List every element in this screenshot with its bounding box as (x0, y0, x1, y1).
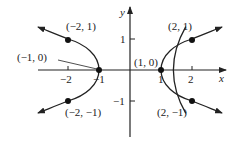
tick-label-x-neg2: −2 (60, 73, 72, 85)
label-point-2-neg1: (2, −1) (157, 106, 187, 119)
point-2-neg1 (189, 98, 195, 104)
tick-label-y-neg1: −1 (113, 95, 125, 107)
hyperbola-plot: x y −2 −1 1 2 1 −1 (−2, 1) (2, 1) (−1, 0… (0, 0, 233, 141)
left-branch-upper (38, 27, 99, 70)
point-2-1 (189, 37, 195, 43)
leader-line-neg1-0 (58, 60, 97, 69)
y-axis-label: y (119, 6, 125, 18)
point-neg1-0 (96, 67, 102, 73)
tick-label-y-1: 1 (120, 33, 126, 45)
label-point-neg2-1: (−2, 1) (66, 20, 96, 33)
label-point-neg2-neg1: (−2, −1) (65, 106, 102, 119)
right-branch-upper (161, 27, 222, 70)
label-point-2-1: (2, 1) (168, 20, 192, 33)
label-point-neg1-0: (−1, 0) (17, 51, 47, 64)
point-neg2-1 (65, 37, 71, 43)
point-neg2-neg1 (65, 98, 71, 104)
point-1-0 (158, 67, 164, 73)
tick-label-x-2: 2 (188, 73, 194, 85)
x-axis-label: x (218, 72, 224, 84)
label-point-1-0: (1, 0) (134, 56, 158, 69)
